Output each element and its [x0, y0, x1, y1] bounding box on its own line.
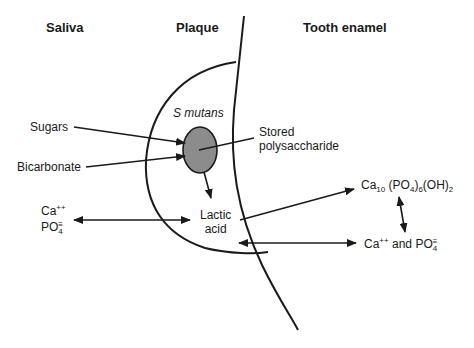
calcium-charge: ++ — [56, 203, 65, 212]
hydroxyapatite-equilibrium-arrow — [399, 197, 405, 232]
calcium-symbol: Ca — [41, 204, 56, 218]
ions-and-phosphate: and PO — [389, 237, 433, 251]
hap-hydroxide-sub: 2 — [449, 185, 453, 194]
label-bicarbonate: Bicarbonate — [17, 160, 81, 174]
label-lactic-line2: acid — [200, 222, 231, 236]
hap-hydroxide: (OH) — [423, 178, 449, 192]
hap-phosphate: (PO — [385, 178, 410, 192]
header-saliva: Saliva — [46, 20, 84, 35]
label-hydroxyapatite: Ca10 (PO4)6(OH)2 — [361, 178, 453, 192]
label-s-mutans: S mutans — [173, 106, 224, 120]
label-saliva-phosphate: PO≡4 — [41, 220, 63, 235]
label-enamel-ions: Ca++ and PO≡4 — [364, 237, 437, 252]
tooth-surface-line — [233, 16, 298, 330]
label-lactic-acid: Lactic acid — [200, 208, 231, 236]
diagram-canvas — [0, 0, 474, 348]
label-saliva-calcium: Ca++ — [41, 204, 66, 218]
phosphate-symbol: PO — [41, 220, 58, 234]
ions-calcium-charge: ++ — [379, 236, 388, 245]
sugars-arrow — [74, 127, 185, 143]
header-plaque: Plaque — [176, 20, 219, 35]
lactic-to-hydroxyapatite-arrow — [240, 189, 354, 220]
label-stored-line1: Stored — [259, 125, 339, 139]
label-stored-line2: polysaccharide — [259, 139, 339, 153]
bacterium-to-lactic-arrow — [204, 172, 211, 198]
label-sugars: Sugars — [30, 120, 68, 134]
hap-calcium-sub: 10 — [376, 185, 385, 194]
ions-phosphate-sub: 4 — [433, 244, 437, 253]
label-lactic-line1: Lactic — [200, 208, 231, 222]
ions-calcium: Ca — [364, 237, 379, 251]
label-stored-polysaccharide: Stored polysaccharide — [259, 125, 339, 153]
bicarbonate-arrow — [86, 156, 185, 167]
phosphate-subscript: 4 — [58, 227, 62, 236]
hap-calcium: Ca — [361, 178, 376, 192]
header-tooth-enamel: Tooth enamel — [303, 20, 387, 35]
phosphate-charge-stack: ≡4 — [58, 221, 63, 235]
ions-phosphate-stack: ≡4 — [433, 238, 438, 252]
